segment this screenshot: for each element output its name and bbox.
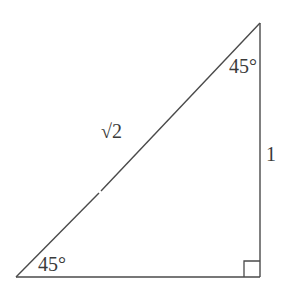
bottom-left-angle-label: 45° xyxy=(38,254,66,274)
top-angle-label: 45° xyxy=(229,56,257,76)
hypotenuse-length-label: √2 xyxy=(101,121,122,141)
triangle-diagram: 45° 45° 1 √2 xyxy=(0,0,285,299)
hypotenuse-upper-segment xyxy=(101,23,260,191)
right-angle-marker xyxy=(244,261,260,277)
vertical-side-length-label: 1 xyxy=(266,144,276,164)
